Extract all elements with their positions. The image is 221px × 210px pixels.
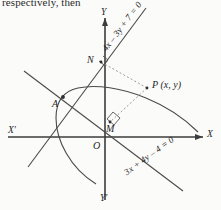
axis-label-y-positive: Y [101, 8, 106, 18]
dashed-segment-PN [101, 62, 147, 88]
dashed-segment-PM [110, 88, 147, 122]
axis-label-x-positive: X [207, 130, 213, 140]
axis-label-x-negative: X′ [8, 126, 16, 136]
point-A-dot [61, 95, 65, 99]
geometry-figure: respectively, then [0, 0, 221, 210]
point-label-P: P (x, y) [152, 80, 181, 90]
point-label-M: M [106, 124, 114, 134]
axis-label-y-negative: Y′ [100, 194, 107, 204]
point-N-dot [100, 61, 103, 64]
point-label-N: N [87, 55, 94, 65]
point-label-O: O [93, 141, 100, 151]
point-label-A: A [52, 99, 58, 109]
point-P-dot [146, 87, 149, 90]
